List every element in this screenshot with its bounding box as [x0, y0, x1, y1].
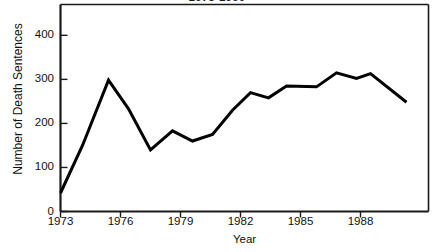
chart-figure: 1973-1990 Number of Death Sentences Year… [0, 0, 434, 252]
x-tick-label: 1973 [37, 215, 85, 227]
x-tick-label: 1982 [217, 215, 265, 227]
x-axis-tick-labels: 197319761979198219851988 [0, 0, 434, 252]
x-tick-label: 1985 [277, 215, 325, 227]
x-tick-label: 1979 [157, 215, 205, 227]
x-tick-label: 1976 [97, 215, 145, 227]
x-tick-label: 1988 [337, 215, 385, 227]
